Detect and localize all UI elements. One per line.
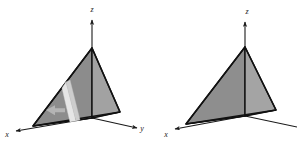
left-panel: z x y (4, 5, 144, 139)
figure-container: z x y z x (0, 0, 297, 155)
left-y-axis-line (92, 118, 137, 128)
tetrahedra-figure: z x y z x (0, 0, 297, 155)
right-y-axis-line (245, 116, 297, 127)
right-z-axis-label: z (244, 7, 249, 16)
right-x-axis-label: x (163, 130, 168, 139)
left-z-axis-label: z (89, 5, 94, 14)
left-y-axis-label: y (139, 124, 144, 133)
right-panel: z x (163, 7, 297, 139)
left-x-axis-label: x (4, 130, 9, 139)
